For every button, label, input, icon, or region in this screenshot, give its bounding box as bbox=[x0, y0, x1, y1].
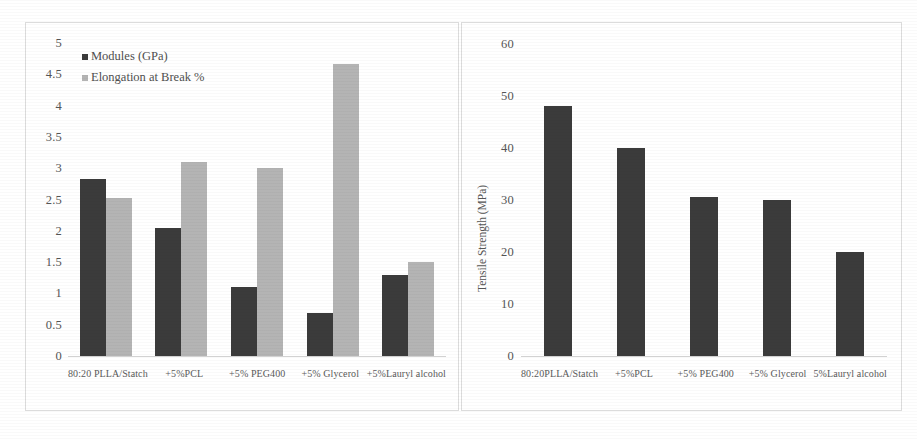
y-tick-label: 4 bbox=[56, 98, 62, 113]
legend-item-elongation: Elongation at Break % bbox=[82, 67, 205, 88]
bar-group bbox=[155, 43, 207, 356]
bar bbox=[690, 197, 718, 356]
bar bbox=[836, 252, 864, 356]
bar-group bbox=[690, 44, 718, 356]
left-chart-bar-groups bbox=[68, 43, 446, 356]
y-tick-label: 20 bbox=[501, 245, 514, 260]
legend-item-modules: Modules (GPa) bbox=[82, 46, 205, 67]
left-chart-baseline bbox=[68, 356, 446, 357]
y-tick-label: 1.5 bbox=[46, 255, 62, 270]
legend-swatch-modules-icon bbox=[82, 54, 88, 60]
bar-group bbox=[382, 43, 434, 356]
bar bbox=[333, 64, 359, 356]
bar-group bbox=[763, 44, 791, 356]
left-chart-legend: Modules (GPa) Elongation at Break % bbox=[82, 46, 205, 88]
right-chart-bar-groups bbox=[521, 44, 887, 356]
left-chart-plot-area bbox=[68, 43, 446, 356]
bar bbox=[408, 262, 434, 356]
y-tick-label: 2.5 bbox=[46, 192, 62, 207]
legend-label-modules: Modules (GPa) bbox=[91, 46, 168, 67]
y-tick-label: 50 bbox=[501, 89, 514, 104]
x-axis-category-label: +5%PCL bbox=[598, 368, 670, 379]
y-tick-label: 4.5 bbox=[46, 67, 62, 82]
bar bbox=[763, 200, 791, 356]
x-axis-category-label: +5%Lauryl alcohol bbox=[367, 368, 446, 379]
bar-group bbox=[544, 44, 572, 356]
bar-group bbox=[80, 43, 132, 356]
bar bbox=[106, 198, 132, 356]
bar bbox=[181, 162, 207, 356]
legend-label-elongation: Elongation at Break % bbox=[91, 67, 205, 88]
y-tick-label: 0 bbox=[508, 349, 514, 364]
bar bbox=[231, 287, 257, 356]
y-tick-label: 1 bbox=[56, 286, 62, 301]
x-axis-category-label: 5%Lauryl alcohol bbox=[813, 368, 887, 379]
y-tick-label: 0 bbox=[56, 349, 62, 364]
bar-group bbox=[231, 43, 283, 356]
right-chart-x-axis-labels: 80:20PLLA/Statch+5%PCL+5% PEG400+5% Glyc… bbox=[521, 368, 887, 379]
right-chart-y-axis-title: Tensile Strength (MPa) bbox=[476, 185, 488, 292]
left-chart-y-axis: 54.543.532.521.510.50 bbox=[24, 43, 62, 356]
y-tick-label: 40 bbox=[501, 141, 514, 156]
bar bbox=[617, 148, 645, 356]
y-tick-label: 10 bbox=[501, 297, 514, 312]
bar bbox=[155, 228, 181, 356]
y-tick-label: 2 bbox=[56, 223, 62, 238]
bar-group bbox=[836, 44, 864, 356]
y-tick-label: 60 bbox=[501, 37, 514, 52]
bar-group bbox=[307, 43, 359, 356]
bar-group bbox=[617, 44, 645, 356]
left-chart-x-axis-labels: 80:20 PLLA/Statch+5%PCL+5% PEG400+5% Gly… bbox=[68, 368, 446, 379]
y-tick-label: 30 bbox=[501, 193, 514, 208]
x-axis-category-label: +5% Glycerol bbox=[742, 368, 814, 379]
x-axis-category-label: +5% Glycerol bbox=[294, 368, 367, 379]
x-axis-category-label: 80:20PLLA/Statch bbox=[521, 368, 598, 379]
bar bbox=[544, 106, 572, 356]
x-axis-category-label: +5% PEG400 bbox=[221, 368, 294, 379]
right-chart-baseline bbox=[521, 356, 887, 357]
x-axis-category-label: +5% PEG400 bbox=[670, 368, 742, 379]
y-tick-label: 3.5 bbox=[46, 129, 62, 144]
figure-container: 54.543.532.521.510.50 80:20 PLLA/Statch+… bbox=[0, 0, 917, 439]
x-axis-category-label: +5%PCL bbox=[148, 368, 221, 379]
y-tick-label: 0.5 bbox=[46, 317, 62, 332]
y-tick-label: 3 bbox=[56, 161, 62, 176]
bar bbox=[257, 168, 283, 356]
bar bbox=[382, 275, 408, 356]
bar bbox=[80, 179, 106, 356]
y-tick-label: 5 bbox=[56, 36, 62, 51]
x-axis-category-label: 80:20 PLLA/Statch bbox=[68, 368, 148, 379]
bar bbox=[307, 313, 333, 356]
legend-swatch-elongation-icon bbox=[82, 75, 88, 81]
right-chart-plot-area bbox=[521, 44, 887, 356]
